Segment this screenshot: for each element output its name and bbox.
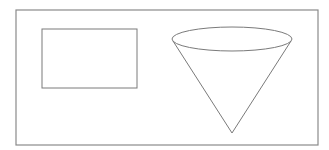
diagram-canvas (0, 0, 329, 150)
cone-shape (172, 27, 292, 133)
cone-left-edge (173, 41, 232, 133)
rectangle-shape (42, 29, 137, 88)
cone-right-edge (232, 41, 291, 133)
cone-base-ellipse (172, 27, 292, 51)
